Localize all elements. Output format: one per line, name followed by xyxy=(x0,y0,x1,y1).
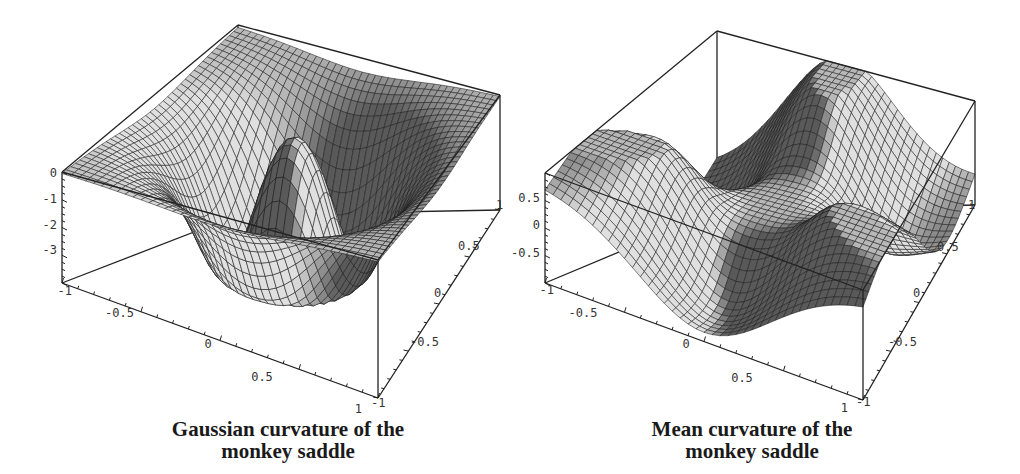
gaussian-curvature-plot: 0-1-2-3-1-0.500.51-1-0.500.51 xyxy=(43,25,504,416)
tick-label: -1 xyxy=(856,395,870,409)
tick-label: -1 xyxy=(43,192,57,206)
tick-label: 1 xyxy=(968,198,975,212)
tick-label: 0 xyxy=(682,337,689,351)
tick-label: 0 xyxy=(434,286,441,300)
tick-label: -3 xyxy=(43,243,57,257)
caption-line-2: monkey saddle xyxy=(582,440,922,462)
tick-label: -0.5 xyxy=(569,306,598,320)
tick-label: -2 xyxy=(43,218,57,232)
caption-line-2: monkey saddle xyxy=(118,440,458,462)
tick-label: -1 xyxy=(371,396,385,410)
tick-label: 0 xyxy=(913,286,920,300)
tick-label: -1 xyxy=(540,283,554,297)
tick-label: 0.5 xyxy=(937,240,959,254)
tick-label: -0.5 xyxy=(410,335,439,349)
tick-label: 0.5 xyxy=(251,370,273,384)
tick-label: -0.5 xyxy=(105,306,134,320)
tick-label: 1 xyxy=(841,401,848,415)
tick-label: 0 xyxy=(533,218,540,232)
tick-label: 0 xyxy=(50,166,57,180)
tick-label: 0.5 xyxy=(731,371,753,385)
mean-curvature-caption: Mean curvature of the monkey saddle xyxy=(582,418,922,462)
tick-label: 0.5 xyxy=(518,191,540,205)
caption-line-1: Mean curvature of the xyxy=(582,418,922,440)
tick-label: -1 xyxy=(58,284,72,298)
tick-label: 0 xyxy=(204,337,211,351)
figure-canvas: 0-1-2-3-1-0.500.51-1-0.500.51 0.50-0.5-1… xyxy=(0,0,1020,474)
tick-label: 0.5 xyxy=(458,239,480,253)
tick-label: -0.5 xyxy=(888,335,917,349)
tick-label: 1 xyxy=(496,198,503,212)
tick-label: 1 xyxy=(355,402,362,416)
mean-curvature-plot: 0.50-0.5-1-0.500.51-1-0.500.51 xyxy=(511,31,975,415)
surface-mesh xyxy=(62,28,500,307)
tick-label: -0.5 xyxy=(511,246,540,260)
caption-line-1: Gaussian curvature of the xyxy=(118,418,458,440)
surface-mesh xyxy=(545,61,975,336)
gaussian-curvature-caption: Gaussian curvature of the monkey saddle xyxy=(118,418,458,462)
